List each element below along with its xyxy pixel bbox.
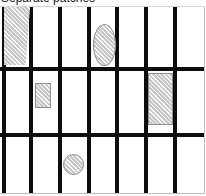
patch-grid-diagram <box>0 6 205 194</box>
patch-trapezoid <box>4 7 30 65</box>
patch-tall-rect <box>148 73 173 125</box>
patch-circle <box>63 154 84 175</box>
grid-vertical-line-5 <box>115 7 119 193</box>
patch-ellipse <box>93 24 116 66</box>
grid-vertical-line-4 <box>87 7 91 193</box>
figure-title: Separate patches <box>1 0 95 4</box>
grid-vertical-line-3 <box>58 7 62 193</box>
grid-vertical-line-7 <box>173 7 177 193</box>
grid-horizontal-line-1 <box>0 67 204 71</box>
patch-small-rect <box>35 83 51 108</box>
grid-vertical-line-2 <box>29 7 33 193</box>
grid-horizontal-line-2 <box>0 133 204 137</box>
